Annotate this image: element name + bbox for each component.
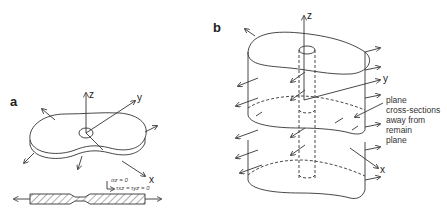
panel-b-z-axis-label: z bbox=[307, 10, 312, 21]
annotation-line: away from bbox=[386, 115, 440, 125]
panel-b-label: b bbox=[213, 20, 221, 35]
panel-b-cylinder bbox=[236, 16, 383, 199]
annotation-line: plane bbox=[386, 95, 440, 105]
panel-a-x-axis-label: x bbox=[149, 174, 154, 185]
panel-b-x-axis-label: x bbox=[380, 164, 385, 175]
panel-a-label: a bbox=[10, 94, 17, 109]
diagram-canvas bbox=[0, 0, 447, 212]
panel-b-y-axis-label: y bbox=[383, 73, 388, 84]
annotation-line: cross-sections bbox=[386, 105, 440, 115]
plane-sections-annotation: plane cross-sections away from remain pl… bbox=[386, 95, 440, 145]
panel-a-z-axis-label: z bbox=[89, 89, 94, 100]
panel-a-y-axis-label: y bbox=[137, 92, 142, 103]
stress-condition-sigma: σz = 0 bbox=[111, 177, 128, 183]
stress-condition-tau: τxz = τyz = 0 bbox=[116, 185, 150, 191]
annotation-line: plane bbox=[386, 135, 440, 145]
annotation-line: remain bbox=[386, 125, 440, 135]
